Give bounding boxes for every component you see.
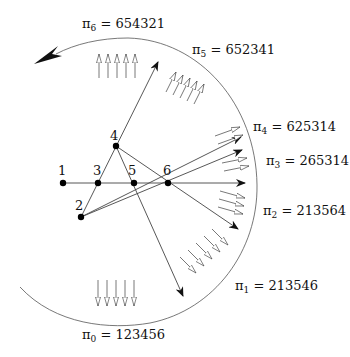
point-2: [78, 214, 84, 220]
perm-label-pi2: π2 = 213564: [263, 203, 346, 220]
arrow-bundle-pi0: [98, 280, 134, 306]
perm-label-pi3: π3 = 265314: [266, 153, 349, 170]
arrow-bundle-pi6: [99, 54, 135, 78]
point-label-5: 5: [128, 163, 136, 178]
perm-label-pi4: π4 = 625314: [253, 119, 336, 136]
rotation-arc: [20, 38, 257, 326]
point-label-4: 4: [110, 128, 118, 143]
point-4: [113, 143, 119, 149]
arrow-bundle-pi4: [215, 127, 243, 144]
perm-label-pi0: π0 = 123456: [82, 327, 165, 344]
arrow-bundle-pi3: [222, 158, 249, 171]
arrow-bundle-pi2: [218, 191, 245, 214]
line-2-6: [81, 150, 242, 217]
point-label-2: 2: [75, 198, 83, 213]
point-label-3: 3: [93, 163, 101, 178]
perm-label-pi1: π1 = 213546: [235, 278, 318, 295]
point-label-1: 1: [58, 163, 66, 178]
rotation-arrowhead-icon: [34, 46, 62, 64]
permutation-diagram: 1 2 3 4 5 6 π0 = 123456 π1 = 213546 π2 =…: [0, 0, 350, 357]
point-label-6: 6: [163, 163, 171, 178]
perm-label-pi5: π5 = 652341: [192, 42, 275, 59]
point-5: [131, 180, 137, 186]
line-2-4: [81, 62, 158, 217]
arrow-bundle-pi1: [180, 229, 228, 273]
point-3: [95, 180, 101, 186]
point-6: [165, 180, 171, 186]
point-1: [60, 180, 66, 186]
perm-label-pi6: π6 = 654321: [82, 16, 165, 33]
arrow-bundle-pi5: [166, 72, 204, 104]
line-2-5: [81, 137, 241, 217]
